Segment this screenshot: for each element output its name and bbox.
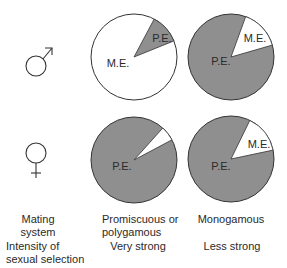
monogamous-label: Monogamous xyxy=(196,213,266,226)
pie-female-monogamous xyxy=(188,116,274,202)
mating-system-label-line1: Mating xyxy=(8,213,68,226)
intensity-label-line2: sexual selection xyxy=(6,253,96,266)
intensity-label-line1: Intensity of xyxy=(6,240,96,253)
intensity-label: Intensity of sexual selection xyxy=(6,240,96,266)
very-strong-label: Very strong xyxy=(108,240,168,253)
pie1-pe-label: P.E. xyxy=(149,32,175,45)
mating-system-label: Mating system xyxy=(8,213,68,239)
promiscuous-label: Promiscuous or polygamous xyxy=(102,213,192,239)
pie4-me-label: M.E. xyxy=(244,138,274,151)
pie2-pe-label: P.E. xyxy=(206,55,236,68)
pie2-me-label: M.E. xyxy=(240,32,270,45)
less-strong-label: Less strong xyxy=(200,240,264,253)
male-symbol-icon xyxy=(26,48,52,76)
female-symbol-icon xyxy=(26,143,46,178)
pie4-pe-label: P.E. xyxy=(206,160,236,173)
promiscuous-label-line2: polygamous xyxy=(102,226,192,239)
mating-system-label-line2: system xyxy=(8,226,68,239)
pie1-me-label: M.E. xyxy=(98,57,138,70)
promiscuous-label-line1: Promiscuous or xyxy=(102,213,192,226)
pie3-pe-label: P.E. xyxy=(107,160,137,173)
